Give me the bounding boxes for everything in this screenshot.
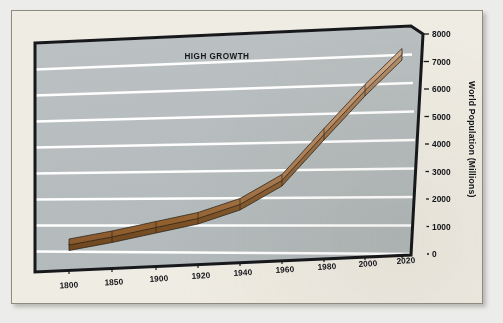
chart-card: HIGH GROWTH 8000 7000 6000: [11, 10, 483, 304]
xtick-label-2000: 2000: [358, 258, 378, 269]
xtick-label-1960: 1960: [275, 264, 295, 275]
xtick-label-1900: 1900: [149, 273, 169, 284]
chart-title: HIGH GROWTH: [185, 52, 250, 61]
xtick-label-1850: 1850: [104, 276, 124, 287]
y-axis: 8000 7000 6000 5000 4000 3000 2000 1000 …: [423, 29, 477, 259]
xtick-label-1940: 1940: [233, 267, 253, 278]
y-axis-label: World Population (Millions): [467, 81, 477, 197]
ytick-label-0: 0: [432, 249, 437, 259]
xtick-label-1980: 1980: [317, 261, 337, 272]
xtick-label-2020: 2020: [396, 255, 416, 266]
ytick-label-1000: 1000: [432, 222, 451, 232]
y-axis-ticks: [423, 34, 429, 254]
ytick-label-4000: 4000: [432, 139, 451, 149]
xtick-label-1800: 1800: [59, 279, 79, 290]
plot-area: [35, 26, 423, 272]
ytick-label-6000: 6000: [432, 84, 451, 94]
xtick-label-1920: 1920: [191, 270, 211, 281]
ytick-label-3000: 3000: [432, 167, 451, 177]
ytick-label-5000: 5000: [432, 112, 451, 122]
ytick-label-8000: 8000: [432, 29, 451, 39]
population-growth-chart: HIGH GROWTH 8000 7000 6000: [12, 11, 482, 303]
ytick-label-2000: 2000: [432, 194, 451, 204]
page-background: HIGH GROWTH 8000 7000 6000: [0, 0, 503, 323]
ytick-label-7000: 7000: [432, 57, 451, 67]
